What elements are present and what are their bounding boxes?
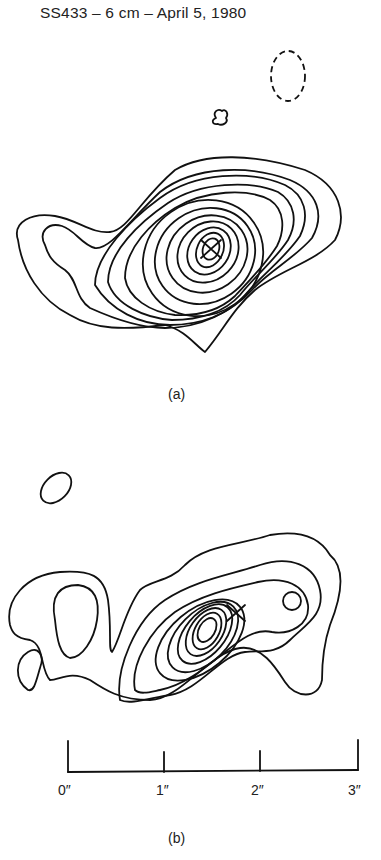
panel-b-contours	[9, 467, 340, 702]
scale-bar	[68, 740, 358, 772]
scale-label-1: 1″	[156, 782, 169, 798]
small-contour	[213, 110, 227, 125]
contour-b-hole	[54, 585, 98, 658]
isolated-contour-upper	[35, 467, 77, 509]
isolated-contour-lower	[18, 650, 42, 690]
contour-a-7	[136, 188, 274, 323]
contour-b-secondary-peak	[283, 592, 301, 610]
contour-maps	[0, 0, 381, 860]
panel-label-a: (a)	[168, 386, 185, 402]
peak-cross-marker-a	[201, 240, 221, 258]
contour-b-8	[187, 608, 228, 655]
panel-a-contours	[17, 51, 341, 352]
contour-a-4	[108, 185, 294, 320]
scale-label-3: 3″	[348, 782, 361, 798]
negative-contour	[271, 51, 305, 101]
contour-b-1	[9, 534, 340, 700]
contour-b-9	[194, 615, 221, 646]
scale-bar-line	[68, 770, 358, 772]
panel-label-b: (b)	[168, 830, 185, 846]
contour-b-7	[177, 601, 234, 664]
scale-label-2: 2″	[251, 782, 264, 798]
contour-a-2	[43, 170, 319, 328]
peak-cross-marker-b	[227, 605, 245, 621]
scale-label-0: 0″	[58, 782, 71, 798]
